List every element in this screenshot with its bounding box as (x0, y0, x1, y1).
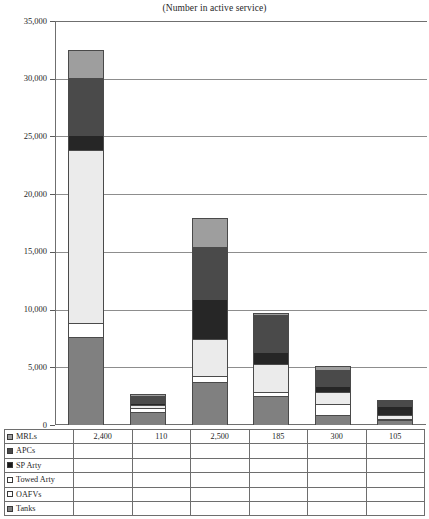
table-value-cell: 300 (308, 430, 367, 444)
table-value-cell: 185 (249, 430, 308, 444)
legend-label: Towed Arty (16, 475, 55, 484)
table-value-cell (191, 458, 250, 472)
table-value-cell (191, 473, 250, 487)
table-value-cell (74, 444, 133, 458)
legend-cell: OAFVs (5, 487, 74, 501)
legend-label: MRLs (16, 432, 37, 441)
table-value-cell (249, 444, 308, 458)
table-value-cell (366, 444, 425, 458)
table-row: Tanks (5, 502, 425, 516)
stacked-bar-chart: (Number in active service) 35,00030,0002… (0, 0, 429, 519)
bar-segment (192, 382, 228, 425)
legend-cell: MRLs (5, 430, 74, 444)
table-value-cell (308, 502, 367, 516)
table-value-cell: 105 (366, 430, 425, 444)
legend-cell: SP Arty (5, 458, 74, 472)
bar-column (253, 313, 289, 425)
bar-segment (253, 315, 289, 352)
table-value-cell (132, 444, 191, 458)
bar-column (68, 50, 104, 425)
legend-data-table: MRLs2,4001102,500185300105APCsSP ArtyTow… (4, 429, 425, 516)
table-value-cell (308, 444, 367, 458)
table-value-cell (308, 487, 367, 501)
bar-segment (377, 420, 413, 425)
y-axis-tick-label: 35,000 (3, 16, 47, 26)
bar-segment (68, 135, 104, 150)
table-value-cell (132, 502, 191, 516)
table-value-cell: 110 (132, 430, 191, 444)
legend-swatch-icon (7, 462, 13, 468)
table-value-cell (308, 458, 367, 472)
legend-cell: Tanks (5, 502, 74, 516)
bar-segment (68, 337, 104, 425)
bar-segment (315, 392, 351, 405)
bar-column (377, 400, 413, 425)
table-value-cell (191, 487, 250, 501)
table-value-cell (74, 473, 133, 487)
table-value-cell (249, 502, 308, 516)
bar-column (130, 394, 166, 425)
legend-cell: APCs (5, 444, 74, 458)
table-row: OAFVs (5, 487, 425, 501)
bar-segment (192, 299, 228, 339)
bar-segment (377, 406, 413, 415)
table-value-cell (366, 487, 425, 501)
table-value-cell (366, 502, 425, 516)
table-value-cell (191, 444, 250, 458)
y-axis-tick-label: 0 (3, 420, 47, 430)
chart-title: (Number in active service) (0, 3, 429, 13)
table-row: APCs (5, 444, 425, 458)
bar-segment (315, 370, 351, 386)
table-value-cell (74, 458, 133, 472)
bar-column (315, 366, 351, 425)
y-axis-tick-label: 10,000 (3, 304, 47, 314)
table-value-cell (249, 487, 308, 501)
table-value-cell: 2,400 (74, 430, 133, 444)
bar-segment (315, 415, 351, 425)
legend-swatch-icon (7, 506, 13, 512)
table-row: MRLs2,4001102,500185300105 (5, 430, 425, 444)
y-axis-tick-label: 30,000 (3, 73, 47, 83)
table-value-cell (366, 473, 425, 487)
bars-layer (55, 21, 426, 425)
bar-segment (253, 396, 289, 425)
legend-label: OAFVs (16, 490, 41, 499)
table-value-cell (74, 502, 133, 516)
table-value-cell (191, 502, 250, 516)
bar-segment (68, 323, 104, 337)
table-value-cell (132, 473, 191, 487)
table-value-cell (366, 458, 425, 472)
legend-label: Tanks (16, 504, 35, 513)
legend-swatch-icon (7, 434, 13, 440)
legend-swatch-icon (7, 448, 13, 454)
bar-segment (192, 218, 228, 247)
table-value-cell (249, 458, 308, 472)
table-value-cell (74, 487, 133, 501)
table-row: SP Arty (5, 458, 425, 472)
legend-label: SP Arty (16, 461, 41, 470)
legend-label: APCs (16, 446, 35, 455)
bar-segment (253, 352, 289, 365)
y-axis-tick-label: 5,000 (3, 362, 47, 372)
table-value-cell (308, 473, 367, 487)
y-axis-tick-label: 15,000 (3, 246, 47, 256)
y-axis-tick (50, 425, 55, 426)
bar-segment (130, 396, 166, 404)
bar-segment (192, 247, 228, 299)
bar-segment (68, 150, 104, 323)
bar-segment (130, 412, 166, 425)
y-axis-tick-label: 25,000 (3, 131, 47, 141)
table-value-cell: 2,500 (191, 430, 250, 444)
bar-segment (68, 50, 104, 78)
bar-segment (315, 404, 351, 414)
y-axis-tick-label: 20,000 (3, 189, 47, 199)
table-value-cell (132, 487, 191, 501)
bar-segment (68, 78, 104, 136)
bar-segment (192, 339, 228, 376)
legend-swatch-icon (7, 491, 13, 497)
legend-swatch-icon (7, 477, 13, 483)
table-row: Towed Arty (5, 473, 425, 487)
bar-segment (253, 364, 289, 392)
table-value-cell (132, 458, 191, 472)
legend-cell: Towed Arty (5, 473, 74, 487)
